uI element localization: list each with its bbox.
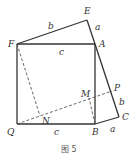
side-label-fa: c xyxy=(59,47,64,57)
segment-bc xyxy=(95,117,119,124)
label-p: P xyxy=(113,83,121,93)
figure-caption: 图 5 xyxy=(61,145,77,154)
label-n: N xyxy=(41,116,51,126)
label-m: M xyxy=(80,89,91,99)
side-label-qb: c xyxy=(54,127,59,137)
segment-ea xyxy=(87,20,95,44)
geometry-figure: E F A Q B C P M N b a c c b a 图 5 xyxy=(0,0,136,161)
side-label-pc: b xyxy=(119,97,125,107)
side-label-fe: b xyxy=(48,21,54,31)
label-a: A xyxy=(98,39,106,49)
label-q: Q xyxy=(7,127,15,137)
dashed-bm xyxy=(89,98,95,124)
label-e: E xyxy=(83,6,91,16)
label-b: B xyxy=(91,127,99,137)
segment-ac xyxy=(95,44,119,117)
dashed-fn xyxy=(17,44,40,116)
side-label-ea: a xyxy=(95,22,100,32)
side-label-bc: a xyxy=(110,124,115,134)
dashed-qp xyxy=(17,91,112,124)
label-f: F xyxy=(7,39,15,49)
label-c: C xyxy=(122,112,129,122)
